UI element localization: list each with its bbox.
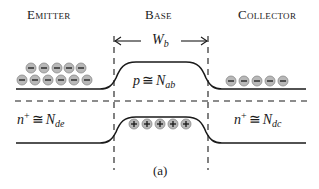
base-width-symbol: Wb	[152, 32, 169, 49]
band-diagram-graphic	[0, 0, 319, 189]
collector-label: Collector	[238, 7, 296, 23]
collector-electrons	[226, 76, 288, 86]
base-doping-label: p≅Nab	[133, 72, 175, 90]
base-holes	[129, 119, 191, 129]
emitter-electrons-row2	[17, 75, 92, 85]
emitter-label: Emitter	[27, 7, 71, 23]
base-label: Base	[145, 7, 172, 23]
figure-caption: (a)	[153, 163, 167, 179]
width-arrow-right	[181, 37, 207, 45]
emitter-doping-label: n+≅Nde	[17, 110, 64, 129]
width-arrow-left	[115, 37, 141, 45]
bjt-band-diagram: Emitter Base Collector Wb p≅Nab n+≅Nde n…	[0, 0, 319, 189]
collector-doping-label: n+≅Ndc	[234, 110, 281, 129]
emitter-electrons-row1	[26, 63, 86, 73]
